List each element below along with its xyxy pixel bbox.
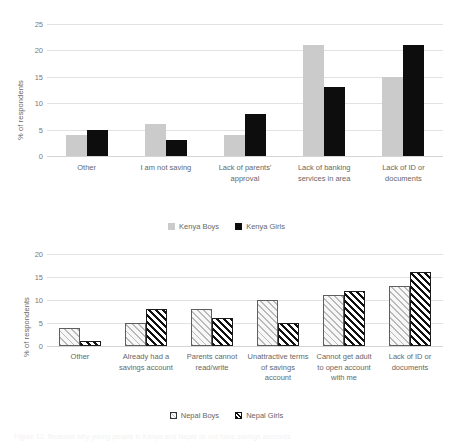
- kenya-xlabel-lack-of-id: Lack of ID or documents: [364, 163, 443, 184]
- nepal-bar-boys-cannot-get-adult: [323, 295, 344, 346]
- nepal-bar-boys-lack-of-id: [389, 286, 410, 346]
- kenya-bar-boys-banking-services: [303, 45, 324, 156]
- kenya-gridline-0: 0: [47, 156, 443, 157]
- nepal-xlabel-lack-of-id: Lack of ID or documents: [377, 352, 443, 384]
- nepal-ytick-10: 10: [35, 296, 43, 305]
- kenya-group-other: [47, 24, 126, 156]
- kenya-legend-item-boys[interactable]: Kenya Boys: [168, 222, 219, 231]
- kenya-group-lack-of-id: [364, 24, 443, 156]
- nepal-x-axis-labels: Other Already had a savings account Pare…: [47, 352, 443, 384]
- nepal-group-lack-of-id: [377, 254, 443, 346]
- nepal-gridline-0: 0: [47, 346, 443, 347]
- nepal-group-cannot-get-adult: [311, 254, 377, 346]
- kenya-bar-groups: [47, 24, 443, 156]
- nepal-xlabel-other: Other: [47, 352, 113, 384]
- kenya-ytick-25: 25: [35, 20, 43, 29]
- nepal-bar-boys-other: [59, 328, 80, 346]
- nepal-ytick-0: 0: [39, 342, 43, 351]
- nepal-legend-swatch-girls-icon: [235, 412, 242, 419]
- nepal-ytick-20: 20: [35, 250, 43, 259]
- kenya-bar-boys-not-saving: [145, 124, 166, 156]
- kenya-bar-girls-banking-services: [324, 87, 345, 156]
- kenya-legend-item-girls[interactable]: Kenya Girls: [235, 222, 285, 231]
- nepal-bar-girls-cannot-get-adult: [344, 291, 365, 346]
- nepal-xlabel-cannot-get-adult: Cannot get adult to open account with me: [311, 352, 377, 384]
- nepal-bar-girls-already-had-account: [146, 309, 167, 346]
- nepal-legend-item-boys[interactable]: Nepal Boys: [170, 411, 219, 420]
- kenya-group-not-saving: [126, 24, 205, 156]
- kenya-y-axis-title: % of respondents: [16, 80, 25, 140]
- kenya-ytick-15: 15: [35, 72, 43, 81]
- nepal-xlabel-unattractive-terms: Unattractive terms of savings account: [245, 352, 311, 384]
- nepal-bar-girls-other: [80, 341, 101, 346]
- nepal-legend-label-girls: Nepal Girls: [246, 411, 283, 420]
- kenya-xlabel-banking-services: Lack of banking services in area: [285, 163, 364, 184]
- kenya-group-banking-services: [285, 24, 364, 156]
- kenya-ytick-5: 5: [39, 125, 43, 134]
- kenya-legend-label-boys: Kenya Boys: [179, 222, 219, 231]
- nepal-xlabel-already-had-account: Already had a savings account: [113, 352, 179, 384]
- kenya-ytick-20: 20: [35, 46, 43, 55]
- kenya-ytick-10: 10: [35, 99, 43, 108]
- nepal-ytick-15: 15: [35, 273, 43, 282]
- kenya-ytick-0: 0: [39, 152, 43, 161]
- kenya-xlabel-other: Other: [47, 163, 126, 184]
- nepal-bar-girls-lack-of-id: [410, 272, 431, 346]
- nepal-bar-boys-already-had-account: [125, 323, 146, 346]
- nepal-plot-area: 20 15 10 5 0: [47, 254, 443, 346]
- nepal-group-already-had-account: [113, 254, 179, 346]
- nepal-legend-label-boys: Nepal Boys: [181, 411, 219, 420]
- nepal-group-unattractive-terms: [245, 254, 311, 346]
- nepal-legend-item-girls[interactable]: Nepal Girls: [235, 411, 283, 420]
- nepal-bar-boys-parents-cannot-read: [191, 309, 212, 346]
- nepal-bar-girls-parents-cannot-read: [212, 318, 233, 346]
- kenya-xlabel-parents-approval: Lack of parents' approval: [205, 163, 284, 184]
- figure-caption: Figure 12: Reasons why young people in K…: [14, 433, 444, 443]
- kenya-legend: Kenya Boys Kenya Girls: [0, 222, 453, 231]
- nepal-ytick-5: 5: [39, 319, 43, 328]
- nepal-group-other: [47, 254, 113, 346]
- nepal-bar-boys-unattractive-terms: [257, 300, 278, 346]
- kenya-bar-chart: % of respondents 25 20 15 10 5 0: [0, 0, 453, 245]
- kenya-legend-swatch-girls-icon: [235, 223, 242, 230]
- nepal-group-parents-cannot-read: [179, 254, 245, 346]
- nepal-y-axis-title: % of respondents: [22, 297, 31, 357]
- nepal-bar-girls-unattractive-terms: [278, 323, 299, 346]
- kenya-group-parents-approval: [205, 24, 284, 156]
- kenya-xlabel-not-saving: I am not saving: [126, 163, 205, 184]
- kenya-legend-swatch-boys-icon: [168, 223, 175, 230]
- kenya-bar-boys-lack-of-id: [382, 77, 403, 156]
- kenya-bar-girls-not-saving: [166, 140, 187, 156]
- kenya-bar-girls-lack-of-id: [403, 45, 424, 156]
- nepal-bar-groups: [47, 254, 443, 346]
- kenya-legend-label-girls: Kenya Girls: [246, 222, 285, 231]
- kenya-plot-area: 25 20 15 10 5 0: [47, 24, 443, 156]
- nepal-xlabel-parents-cannot-read: Parents cannot read/write: [179, 352, 245, 384]
- nepal-bar-chart: % of respondents 20 15 10 5 0: [0, 245, 453, 445]
- nepal-legend-swatch-boys-icon: [170, 412, 177, 419]
- kenya-bar-boys-other: [66, 135, 87, 156]
- kenya-x-axis-labels: Other I am not saving Lack of parents' a…: [47, 163, 443, 184]
- nepal-legend: Nepal Boys Nepal Girls: [0, 411, 453, 420]
- kenya-bar-girls-parents-approval: [245, 114, 266, 156]
- kenya-bar-boys-parents-approval: [224, 135, 245, 156]
- kenya-bar-girls-other: [87, 130, 108, 156]
